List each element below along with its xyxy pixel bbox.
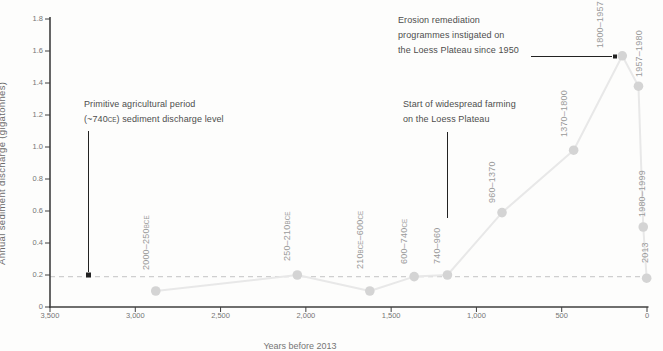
x-tick-label: 2,500 [203,311,239,320]
data-point [617,51,627,61]
period-label: 1370–1800 [559,90,569,137]
annotation-primitive-level: Primitive agricultural period(~740CE) se… [84,97,224,127]
y-tick-label: 1.0 [13,143,43,151]
y-tick-label: 1.8 [13,15,43,23]
data-point [151,286,161,296]
annotation-widespread-farming: Start of widespread farmingon the Loess … [403,97,516,127]
y-tick-label: 0.2 [13,271,43,279]
data-point [497,208,507,218]
annotation-erosion-remediation: Erosion remediationprogrammes instigated… [398,13,519,58]
period-label: 2013 [640,242,650,263]
x-tick-label: 500 [544,311,580,320]
data-point [634,81,644,91]
x-tick-label: 1,000 [458,311,494,320]
period-label: 210BCE–600CE [355,211,365,269]
period-label: 250–210BCE [282,212,292,261]
x-tick-label: 2,000 [288,311,324,320]
period-label: 1957–1980 [634,30,644,77]
y-tick-label: 0 [13,303,43,311]
annotation-marker [86,273,91,278]
period-label: 1800–1957 [595,1,605,48]
y-tick-label: 1.2 [13,111,43,119]
data-point [365,286,375,296]
x-axis-title: Years before 2013 [255,341,345,351]
period-label: 960–1370 [487,161,497,203]
x-tick-label: 3,500 [32,311,68,320]
period-label: 1980–1999 [637,170,647,217]
y-axis-title: Annual sediment discharge (gigatonnes) [0,82,8,265]
data-point [638,222,648,232]
period-label: 600–740CE [399,218,409,263]
x-tick-label: 3,000 [117,311,153,320]
data-point [293,270,303,280]
y-tick-label: 1.4 [13,79,43,87]
y-tick-label: 0.4 [13,239,43,247]
data-point [642,273,652,283]
x-tick-label: 1,500 [373,311,409,320]
data-point [443,270,453,280]
y-tick-label: 0.6 [13,207,43,215]
period-label: 2000–250BCE [141,215,151,270]
data-point [409,272,419,282]
data-point [569,145,579,155]
period-label: 740–960 [432,228,442,264]
y-tick-label: 0.8 [13,175,43,183]
x-tick-label: 0 [629,311,663,320]
y-tick-label: 1.6 [13,47,43,55]
annotation-marker [613,55,617,59]
